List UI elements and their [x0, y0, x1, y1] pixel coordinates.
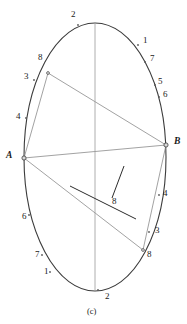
tick-label-3-lower-right-marker — [148, 231, 150, 233]
point-label-B-marker — [164, 143, 168, 147]
tick-label-6-lower-left: 6 — [22, 212, 27, 221]
tick-label-2-top: 2 — [71, 10, 76, 19]
leader-line-eight — [112, 166, 124, 198]
tick-label-8-upper-left: 8 — [38, 53, 43, 62]
chord-top8-to-B — [48, 73, 166, 145]
tick-label-4-lower-right: 4 — [163, 189, 168, 198]
point-label-A: A — [6, 151, 12, 161]
figure-container: B A 2 1 7 5 6 4 3 8 2 1 7 6 4 3 8 8 (c) — [0, 0, 187, 324]
point-label-B: B — [174, 137, 180, 147]
point-label-A-marker — [22, 156, 26, 160]
pointer-label-8-center: 8 — [112, 197, 117, 206]
dark-diagonal-segment — [70, 186, 136, 219]
tick-label-2-bottom: 2 — [105, 292, 110, 301]
tick-label-6-upper-right: 6 — [163, 90, 168, 99]
tick-label-4-lower-right-marker — [158, 194, 160, 196]
top-eight-vertex-marker — [47, 72, 50, 75]
figure-caption: (c) — [87, 306, 96, 316]
tick-label-7-upper-right: 7 — [150, 54, 155, 63]
tick-label-1-lower-left: 1 — [44, 267, 49, 276]
tick-label-5-upper-right-marker — [154, 84, 156, 86]
tick-label-1-upper-right: 1 — [143, 36, 148, 45]
tick-label-5-upper-right: 5 — [158, 77, 163, 86]
bottom-eight-vertex-marker — [142, 249, 145, 252]
chord-bottom8-to-A — [24, 158, 143, 250]
tick-label-6-lower-left-marker — [28, 214, 30, 216]
tick-label-3-upper-left: 3 — [24, 72, 29, 81]
tick-label-7-lower-left: 7 — [35, 250, 40, 259]
tick-label-1-upper-right-marker — [137, 44, 139, 46]
tick-label-7-lower-left-marker — [41, 254, 43, 256]
tick-label-1-lower-left-marker — [49, 271, 51, 273]
tick-label-7-upper-right-marker — [144, 61, 146, 63]
tick-label-4-upper-left-marker — [25, 117, 27, 119]
tick-label-4-upper-left: 4 — [16, 112, 21, 121]
tick-label-3-upper-left-marker — [33, 79, 35, 81]
tick-label-6-upper-right-marker — [158, 96, 160, 98]
tick-label-8-lower-right: 8 — [147, 250, 152, 259]
tick-label-2-top-marker — [77, 24, 79, 26]
tick-label-3-lower-right: 3 — [155, 226, 160, 235]
geometry-diagram — [0, 0, 187, 324]
tick-label-2-bottom-marker — [97, 289, 99, 291]
